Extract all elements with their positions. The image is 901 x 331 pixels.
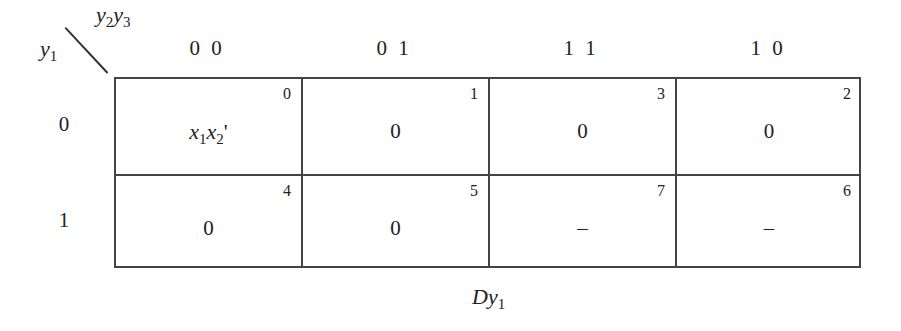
corner-diagonal-line	[65, 27, 109, 74]
col-var-y2-sub: 2	[106, 14, 114, 30]
cell-2: 2 0	[677, 79, 861, 176]
cell-3: 3 0	[490, 79, 677, 176]
column-header-10: 1 0	[675, 36, 861, 61]
cell-index: 5	[470, 182, 478, 200]
column-variable-label: y2y3	[96, 2, 131, 28]
cell-value: 0	[490, 119, 675, 144]
cell-index: 2	[843, 85, 851, 103]
cell-0: 0 x1x2'	[116, 79, 303, 176]
column-header-11: 1 1	[488, 36, 674, 61]
cell-6: 6 –	[677, 176, 861, 268]
caption-base: Dy	[472, 284, 498, 309]
expr-x1: x	[189, 119, 199, 144]
col-var-y3-base: y	[113, 2, 123, 27]
cell-index: 3	[657, 85, 665, 103]
row-var-base: y	[40, 36, 50, 61]
cell-value: 0	[677, 119, 861, 144]
cell-4: 4 0	[116, 176, 303, 268]
cell-index: 0	[283, 85, 291, 103]
cell-value: 0	[303, 216, 488, 241]
expr-prime: '	[224, 119, 228, 144]
cell-5: 5 0	[303, 176, 490, 268]
row-var-sub: 1	[50, 48, 58, 64]
expr-x2: x	[207, 119, 217, 144]
caption-sub: 1	[498, 296, 506, 312]
row-header-0: 0	[44, 112, 84, 137]
cell-index: 7	[657, 182, 665, 200]
cell-index: 6	[843, 182, 851, 200]
row-header-1: 1	[44, 208, 84, 233]
cell-index: 4	[283, 182, 291, 200]
karnaugh-map-grid: 0 x1x2' 1 0 3 0 2 0 4 0 5 0 7 – 6 –	[114, 77, 861, 268]
row-variable-label: y1	[40, 36, 57, 62]
cell-7: 7 –	[490, 176, 677, 268]
cell-value: 0	[303, 119, 488, 144]
col-var-y3-sub: 3	[123, 14, 131, 30]
column-header-01: 0 1	[301, 36, 487, 61]
col-var-y2-base: y	[96, 2, 106, 27]
expr-x1-sub: 1	[199, 131, 207, 147]
map-caption: Dy1	[472, 284, 505, 310]
cell-value-dont-care: –	[490, 216, 675, 241]
cell-value-dont-care: –	[677, 216, 861, 241]
expr-x2-sub: 2	[216, 131, 224, 147]
cell-index: 1	[470, 85, 478, 103]
column-header-00: 0 0	[114, 36, 300, 61]
cell-1: 1 0	[303, 79, 490, 176]
cell-value-expression: x1x2'	[116, 119, 301, 145]
cell-value: 0	[116, 216, 301, 241]
